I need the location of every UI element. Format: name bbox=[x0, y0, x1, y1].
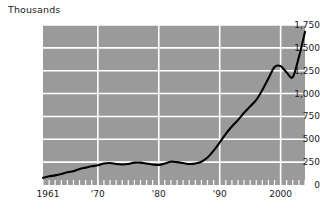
vertical-gridlines bbox=[98, 25, 281, 185]
horizontal-gridlines bbox=[43, 25, 305, 162]
y-axis-tick-label: 250 bbox=[279, 157, 320, 167]
y-axis-tick-label: 750 bbox=[279, 111, 320, 121]
x-axis-tick-label: 1961 bbox=[37, 189, 60, 199]
x-axis-tick-label: '70 bbox=[91, 189, 105, 199]
chart-svg bbox=[0, 0, 320, 221]
x-axis-tick-label: 2000 bbox=[269, 189, 292, 199]
x-axis-tick-marks bbox=[43, 180, 305, 185]
y-axis-tick-label: 1,500 bbox=[279, 43, 320, 53]
y-axis-tick-label: 1,250 bbox=[279, 66, 320, 76]
y-axis-tick-label: 1,750 bbox=[279, 20, 320, 30]
x-axis-tick-label: '80 bbox=[152, 189, 166, 199]
data-series-line bbox=[43, 32, 305, 178]
y-axis-tick-label: 1,000 bbox=[279, 89, 320, 99]
chart-container: Thousands 1,7501,5001,2501,0007505002500… bbox=[0, 0, 320, 221]
y-axis-tick-label: 500 bbox=[279, 134, 320, 144]
x-axis-tick-label: '90 bbox=[213, 189, 227, 199]
